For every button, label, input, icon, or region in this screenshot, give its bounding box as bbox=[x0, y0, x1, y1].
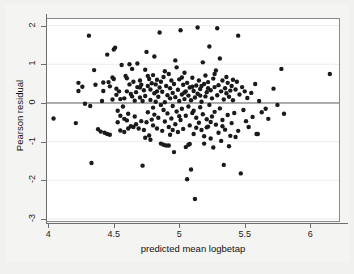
x-tick-label: 6 bbox=[297, 229, 323, 239]
data-point bbox=[174, 109, 178, 113]
data-point bbox=[194, 83, 198, 87]
data-point bbox=[205, 125, 209, 129]
x-tick-label: 5 bbox=[166, 229, 192, 239]
gridlines bbox=[47, 26, 339, 219]
data-point bbox=[173, 58, 177, 62]
data-point bbox=[119, 63, 123, 67]
data-point bbox=[133, 98, 137, 102]
data-point bbox=[127, 62, 131, 66]
data-point bbox=[208, 136, 212, 140]
data-point bbox=[191, 109, 195, 113]
data-point bbox=[127, 82, 131, 86]
data-point bbox=[241, 108, 245, 112]
data-point bbox=[190, 76, 194, 80]
data-point bbox=[156, 115, 160, 119]
data-point bbox=[163, 69, 167, 73]
data-point bbox=[157, 85, 161, 89]
data-point bbox=[168, 133, 172, 137]
x-tick-mark bbox=[114, 223, 115, 228]
y-axis-line bbox=[46, 14, 47, 223]
data-point bbox=[188, 123, 192, 127]
data-point bbox=[190, 85, 194, 89]
data-point bbox=[197, 121, 201, 125]
data-point bbox=[180, 75, 184, 79]
data-point bbox=[113, 45, 117, 49]
x-tick-mark bbox=[310, 223, 311, 228]
data-point bbox=[206, 86, 210, 90]
data-point bbox=[205, 90, 209, 94]
data-point bbox=[134, 90, 138, 94]
data-point bbox=[184, 145, 188, 149]
data-point bbox=[185, 177, 189, 181]
data-point bbox=[220, 78, 224, 82]
data-point bbox=[231, 78, 235, 82]
data-point bbox=[168, 96, 172, 100]
data-point bbox=[116, 120, 120, 124]
data-point bbox=[148, 98, 152, 102]
data-point bbox=[131, 79, 135, 83]
data-point bbox=[173, 122, 177, 126]
x-axis-line bbox=[46, 223, 348, 224]
data-point bbox=[210, 114, 214, 118]
data-point bbox=[227, 95, 231, 99]
data-point bbox=[98, 129, 102, 133]
data-point bbox=[126, 112, 130, 116]
data-point bbox=[184, 114, 188, 118]
data-point bbox=[151, 123, 155, 127]
data-point bbox=[178, 28, 182, 32]
data-point bbox=[223, 86, 227, 90]
data-point bbox=[218, 56, 222, 60]
data-point bbox=[211, 76, 215, 80]
data-point bbox=[177, 114, 181, 118]
y-tick-label: 1 bbox=[27, 56, 37, 70]
data-point bbox=[110, 97, 114, 101]
y-tick-mark bbox=[41, 64, 46, 65]
data-point bbox=[138, 95, 142, 99]
data-point bbox=[152, 54, 156, 58]
data-point bbox=[140, 163, 144, 167]
data-point bbox=[105, 52, 109, 56]
data-point bbox=[263, 107, 267, 111]
data-point bbox=[232, 111, 236, 115]
data-point bbox=[229, 121, 233, 125]
data-point bbox=[174, 65, 178, 69]
data-point bbox=[161, 143, 165, 147]
data-point bbox=[216, 83, 220, 87]
data-point bbox=[176, 88, 180, 92]
data-point bbox=[203, 73, 207, 77]
data-point bbox=[198, 93, 202, 97]
data-point bbox=[185, 81, 189, 85]
data-point bbox=[197, 78, 201, 82]
data-point bbox=[139, 119, 143, 123]
data-point bbox=[328, 72, 332, 76]
data-point bbox=[118, 128, 122, 132]
data-point bbox=[215, 93, 219, 97]
data-point bbox=[169, 78, 173, 82]
data-point bbox=[153, 100, 157, 104]
data-point bbox=[150, 81, 154, 85]
data-point bbox=[151, 73, 155, 77]
data-point bbox=[163, 100, 167, 104]
data-point bbox=[125, 118, 129, 122]
data-point bbox=[231, 98, 235, 102]
data-point bbox=[191, 132, 195, 136]
x-tick-label: 5.5 bbox=[232, 229, 258, 239]
data-point bbox=[167, 125, 171, 129]
data-point bbox=[144, 120, 148, 124]
data-point bbox=[164, 84, 168, 88]
data-point bbox=[191, 89, 195, 93]
data-point bbox=[116, 109, 120, 113]
data-point bbox=[142, 128, 146, 132]
data-point bbox=[224, 91, 228, 95]
data-point bbox=[159, 79, 163, 83]
data-point bbox=[155, 78, 159, 82]
y-axis-title: Pearson residual bbox=[14, 41, 25, 191]
data-point bbox=[186, 93, 190, 97]
data-point bbox=[130, 94, 134, 98]
data-point bbox=[146, 74, 150, 78]
data-point bbox=[220, 118, 224, 122]
data-point bbox=[182, 71, 186, 75]
data-point bbox=[140, 99, 144, 103]
data-point bbox=[157, 30, 161, 34]
data-point bbox=[194, 126, 198, 130]
